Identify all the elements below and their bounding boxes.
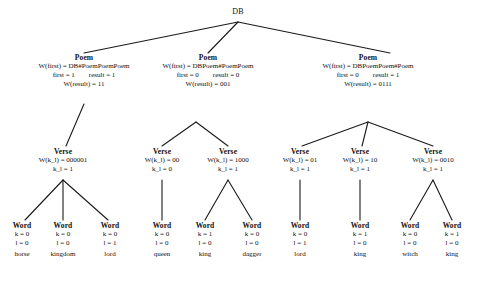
node-label: Word <box>291 222 310 230</box>
node-word-10: Word k = 1 l = 0 king <box>443 222 462 258</box>
node-label: Word <box>242 222 261 230</box>
verse-kl: k_l = 1 <box>207 166 249 173</box>
poem-wresult: W(result) = 0111 <box>322 81 413 88</box>
verse-kl: k_l = 1 <box>412 166 454 173</box>
word-l: l = 1 <box>101 240 120 247</box>
word-k: k = 1 <box>351 231 370 238</box>
node-label: Word <box>351 222 370 230</box>
node-label: Verse <box>39 148 88 156</box>
word-value: king <box>351 251 370 258</box>
word-value: lord <box>291 251 310 258</box>
poem-first: first = 1 <box>53 71 75 79</box>
word-k: k = 0 <box>13 231 32 238</box>
edge-verse3-word6 <box>228 180 252 220</box>
node-word-1: Word k = 0 l = 0 horse <box>13 222 32 258</box>
node-word-8: Word k = 1 l = 0 king <box>351 222 370 258</box>
node-label: Word <box>13 222 32 230</box>
node-label: Verse <box>412 148 454 156</box>
edge-poem1-verse1 <box>66 104 84 146</box>
poem-result: result = 1 <box>373 71 400 79</box>
derivation-tree-figure: DB Poem W(first) = DB#PoemPoemPoem first… <box>0 0 477 293</box>
edge-verse3-word5 <box>205 180 228 220</box>
verse-wkl: W(k_l) = 00 <box>145 157 180 164</box>
poem-result: result = 1 <box>89 71 116 79</box>
node-label: Poem <box>322 54 413 62</box>
word-value: witch <box>401 251 420 258</box>
word-l: l = 0 <box>153 240 172 247</box>
verse-kl: k_l = 1 <box>283 166 318 173</box>
poem-result: result = 0 <box>213 71 240 79</box>
node-label: Verse <box>283 148 318 156</box>
node-word-7: Word k = 0 l = 1 lord <box>291 222 310 258</box>
word-k: k = 0 <box>291 231 310 238</box>
node-label: Poem <box>162 54 253 62</box>
node-verse-2: Verse W(k_l) = 00 k_l = 0 <box>145 148 180 174</box>
verse-wkl: W(k_l) = 1000 <box>207 157 249 164</box>
word-value: queen <box>153 251 172 258</box>
node-verse-3: Verse W(k_l) = 1000 k_l = 1 <box>207 148 249 174</box>
word-l: l = 1 <box>291 240 310 247</box>
word-k: k = 1 <box>196 231 215 238</box>
node-verse-5: Verse W(k_l) = 10 k_l = 1 <box>343 148 378 174</box>
poem-wresult: W(result) = 11 <box>38 81 129 88</box>
word-k: k = 1 <box>443 231 462 238</box>
node-verse-1: Verse W(k_l) = 000001 k_l = 1 <box>39 148 88 174</box>
node-label: Word <box>51 222 76 230</box>
edge-poem3-verse5 <box>362 122 368 146</box>
word-k: k = 0 <box>242 231 261 238</box>
node-word-4: Word k = 0 l = 0 queen <box>153 222 172 258</box>
node-label: Verse <box>343 148 378 156</box>
poem-first-result: first = 1result = 1 <box>38 72 129 79</box>
word-l: l = 0 <box>51 240 76 247</box>
node-word-3: Word k = 0 l = 1 lord <box>101 222 120 258</box>
node-label: Word <box>101 222 120 230</box>
node-word-2: Word k = 0 l = 0 kingdom <box>51 222 76 258</box>
poem-wresult: W(result) = 001 <box>162 81 253 88</box>
word-l: l = 0 <box>13 240 32 247</box>
edge-poem3-verse4 <box>302 122 368 146</box>
edge-db-poem-2 <box>208 22 238 53</box>
node-label: DB <box>232 8 243 16</box>
word-l: l = 0 <box>351 240 370 247</box>
word-value: lord <box>101 251 120 258</box>
poem-first: first = 0 <box>337 71 359 79</box>
word-value: dagger <box>242 251 261 258</box>
edge-verse6-word9 <box>410 180 433 220</box>
node-word-5: Word k = 1 l = 0 king <box>196 222 215 258</box>
edge-poem2-verse3 <box>196 122 228 146</box>
node-word-9: Word k = 0 l = 0 witch <box>401 222 420 258</box>
verse-kl: k_l = 0 <box>145 166 180 173</box>
word-k: k = 0 <box>401 231 420 238</box>
node-label: Poem <box>38 54 129 62</box>
node-verse-6: Verse W(k_l) = 0010 k_l = 1 <box>412 148 454 174</box>
node-poem-1: Poem W(first) = DB#PoemPoemPoem first = … <box>38 54 129 88</box>
poem-first-result: first = 0result = 0 <box>162 72 253 79</box>
word-l: l = 0 <box>242 240 261 247</box>
word-k: k = 0 <box>51 231 76 238</box>
node-label: Verse <box>145 148 180 156</box>
poem-wfirst: W(first) = DBPoem#PoemPoem <box>162 63 253 70</box>
word-value: king <box>196 251 215 258</box>
node-label: Word <box>196 222 215 230</box>
word-k: k = 0 <box>101 231 120 238</box>
edge-verse1-word3 <box>63 180 108 220</box>
edge-db-poem-3 <box>238 22 390 53</box>
poem-first: first = 0 <box>177 71 199 79</box>
word-l: l = 0 <box>196 240 215 247</box>
edge-db-poem-1 <box>84 22 238 53</box>
verse-wkl: W(k_l) = 0010 <box>412 157 454 164</box>
word-value: horse <box>13 251 32 258</box>
node-db-root: DB <box>232 8 243 16</box>
poem-wfirst: W(first) = DBPoemPoem#Poem <box>322 63 413 70</box>
edge-verse1-word1 <box>25 180 63 220</box>
edge-verse6-word10 <box>433 180 452 220</box>
node-poem-2: Poem W(first) = DBPoem#PoemPoem first = … <box>162 54 253 88</box>
verse-kl: k_l = 1 <box>343 166 378 173</box>
verse-wkl: W(k_l) = 10 <box>343 157 378 164</box>
edge-poem3-verse6 <box>368 122 433 146</box>
node-label: Word <box>153 222 172 230</box>
verse-wkl: W(k_l) = 01 <box>283 157 318 164</box>
edge-poem2-verse2 <box>162 122 196 146</box>
node-poem-3: Poem W(first) = DBPoemPoem#Poem first = … <box>322 54 413 88</box>
word-l: l = 0 <box>401 240 420 247</box>
